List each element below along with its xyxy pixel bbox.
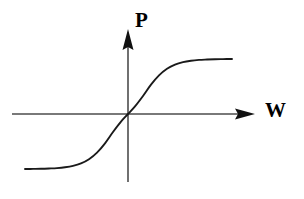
- p-axis-arrowhead: [123, 29, 134, 50]
- w-axis-group: [12, 109, 255, 120]
- p-axis-label: P: [135, 10, 148, 31]
- w-axis-arrowhead: [235, 109, 255, 120]
- plot-svg: [0, 0, 304, 199]
- p-axis-group: [123, 29, 134, 182]
- w-axis-label: W: [265, 100, 286, 121]
- figure-canvas: P W: [0, 0, 304, 199]
